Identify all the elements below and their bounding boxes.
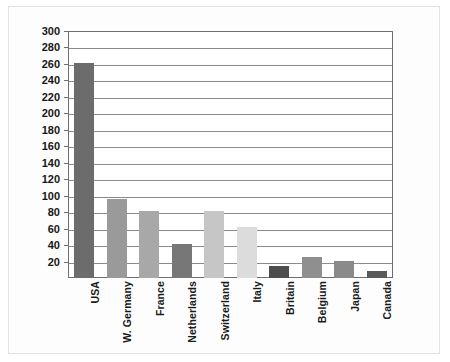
y-tick-label: 200 xyxy=(16,108,60,119)
bar-chart: 2040608010012014016018020022024026028030… xyxy=(0,0,450,362)
bar xyxy=(139,211,159,278)
x-tick-label: Canada xyxy=(381,281,393,320)
y-tick-label: 240 xyxy=(16,75,60,86)
bar xyxy=(107,199,127,278)
x-tick-label: Italy xyxy=(251,281,263,303)
x-tick-label: W. Germany xyxy=(121,281,133,343)
bar xyxy=(204,211,224,278)
x-tick-label: Switzerland xyxy=(219,281,231,340)
y-tick-label: 80 xyxy=(16,207,60,218)
y-tick-label: 280 xyxy=(16,42,60,53)
x-tick-label: Japan xyxy=(349,281,361,312)
bar-series xyxy=(68,31,393,278)
bar xyxy=(269,266,289,278)
y-tick-label: 20 xyxy=(16,257,60,268)
x-tick-label: Britain xyxy=(284,281,296,315)
y-tick-label: 100 xyxy=(16,191,60,202)
chart-page: 2040608010012014016018020022024026028030… xyxy=(0,0,450,362)
bar xyxy=(367,271,387,278)
x-tick-label: France xyxy=(154,281,166,316)
x-tick-label: Netherlands xyxy=(186,281,198,343)
bar xyxy=(302,257,322,278)
y-tick-label: 60 xyxy=(16,224,60,235)
x-axis-labels: USAW. GermanyFranceNetherlandsSwitzerlan… xyxy=(68,281,393,361)
x-tick-label: USA xyxy=(89,281,101,303)
y-tick-label: 180 xyxy=(16,125,60,136)
y-tick-label: 40 xyxy=(16,240,60,251)
bar xyxy=(74,63,94,278)
bar xyxy=(172,244,192,278)
y-tick-label: 300 xyxy=(16,26,60,37)
y-tick-label: 160 xyxy=(16,141,60,152)
y-tick-label: 220 xyxy=(16,92,60,103)
y-tick-label: 260 xyxy=(16,59,60,70)
y-tick-label: 140 xyxy=(16,158,60,169)
y-tick-label: 120 xyxy=(16,174,60,185)
bar xyxy=(334,261,354,278)
bar xyxy=(237,227,257,278)
x-tick-label: Belgium xyxy=(316,281,328,323)
